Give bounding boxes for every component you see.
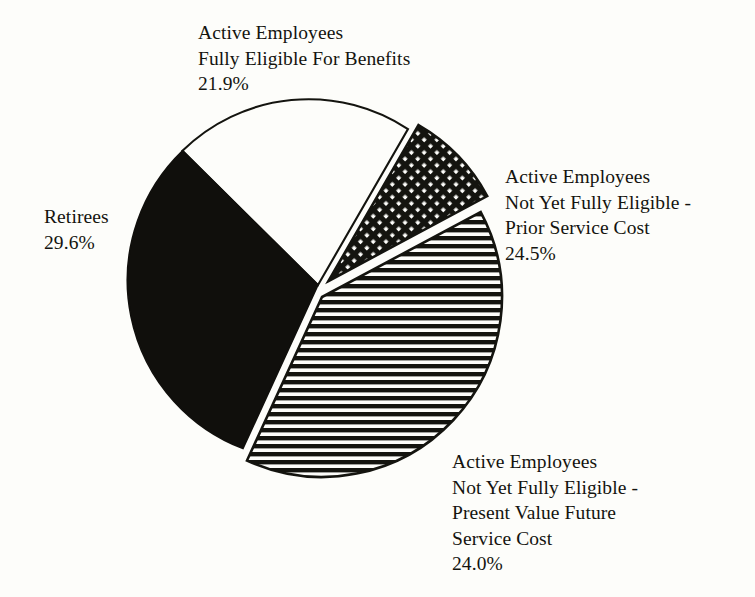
pie-label-prior-service-line1: Active Employees: [505, 164, 691, 190]
pie-label-present-value: Active Employees Not Yet Fully Eligible …: [452, 449, 638, 577]
pie-label-retirees-percent: 29.6%: [44, 230, 109, 256]
pie-label-present-value-percent: 24.0%: [452, 551, 638, 577]
pie-label-prior-service-line2: Not Yet Fully Eligible -: [505, 190, 691, 216]
pie-label-present-value-line1: Active Employees: [452, 449, 638, 475]
pie-label-fully-eligible: Active Employees Fully Eligible For Bene…: [198, 20, 410, 97]
pie-label-fully-eligible-percent: 21.9%: [198, 71, 410, 97]
pie-label-retirees-line1: Retirees: [44, 204, 109, 230]
pie-label-present-value-line4: Service Cost: [452, 526, 638, 552]
pie-label-fully-eligible-line1: Active Employees: [198, 20, 410, 46]
pie-label-present-value-line3: Present Value Future: [452, 500, 638, 526]
pie-label-present-value-line2: Not Yet Fully Eligible -: [452, 475, 638, 501]
pie-label-prior-service-percent: 24.5%: [505, 241, 691, 267]
pie-label-prior-service-line3: Prior Service Cost: [505, 215, 691, 241]
pie-label-fully-eligible-line2: Fully Eligible For Benefits: [198, 46, 410, 72]
pie-chart: Active Employees Fully Eligible For Bene…: [0, 0, 755, 597]
pie-label-prior-service: Active Employees Not Yet Fully Eligible …: [505, 164, 691, 266]
pie-label-retirees: Retirees 29.6%: [44, 204, 109, 255]
